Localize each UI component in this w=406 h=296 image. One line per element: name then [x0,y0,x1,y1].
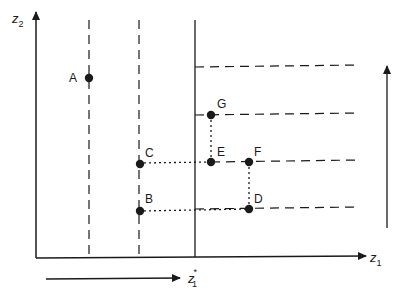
horizontal-dashed-lines [195,65,358,209]
label-d: D [254,192,263,206]
label-e: E [217,145,225,159]
x-axis [36,256,366,258]
point-c [136,160,144,168]
dashed-h-top [195,65,358,67]
label-a: A [69,71,77,85]
y-axis-label: z2 [11,11,24,29]
dotted-b-d [139,209,249,211]
point-d [245,205,253,213]
vertical-dashed-lines [89,20,139,258]
dotted-connectors [139,115,249,211]
label-g: G [217,97,226,111]
point-b [136,207,144,215]
dashed-h-d [195,207,358,209]
label-b: B [145,192,153,206]
point-e [207,158,215,166]
point-f [245,158,253,166]
threshold-label: z*1 [187,267,198,289]
dashed-h-ef [211,160,358,162]
diagram-canvas: z2 z1 A B C D E F G z*1 [0,0,406,296]
label-f: F [254,145,261,159]
axes [36,12,366,258]
point-a [85,74,93,82]
points [85,74,253,215]
x-axis-label: z1 [369,250,382,268]
label-c: C [145,146,154,160]
dotted-c-e [139,162,211,163]
dashed-h-g [195,113,358,115]
point-g [207,111,215,119]
rightward-arrow [46,278,180,279]
